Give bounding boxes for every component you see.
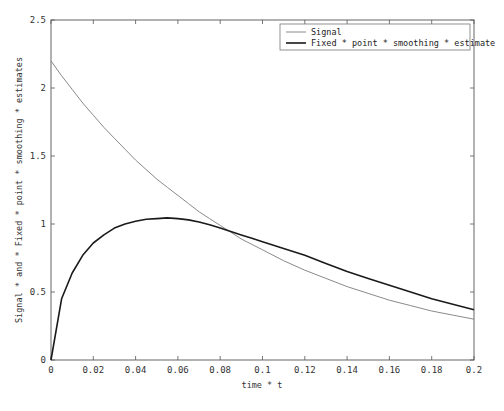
x-tick-label: 0.2 [466,365,482,375]
legend-signal-label: Signal [311,27,342,37]
x-tick-label: 0.08 [209,365,231,375]
data-series [51,61,474,360]
x-tick-label: 0.14 [336,365,358,375]
plot-border [51,20,474,360]
x-tick-label: 0.02 [82,365,104,375]
x-tick-label: 0.16 [379,365,401,375]
y-tick-label: 2 [41,83,46,93]
y-axis-label: Signal * and * Fixed * point * smoothing… [14,57,24,323]
legend: Signal Fixed * point * smoothing * estim… [280,24,495,50]
y-tick-label: 0.5 [30,287,46,297]
x-axis-label: time * t [242,380,283,390]
smoothing-estimate-line [51,218,474,360]
plot-area [51,20,474,360]
legend-estimate-label: Fixed * point * smoothing * estimate [311,38,495,48]
x-tick-label: 0.04 [125,365,147,375]
line-chart: 00.020.040.060.080.10.120.140.160.180.20… [0,0,504,411]
y-tick-label: 0 [41,355,46,365]
axis-ticks: 00.020.040.060.080.10.120.140.160.180.20… [30,15,482,375]
x-tick-label: 0.1 [254,365,270,375]
signal-line [51,61,474,319]
y-tick-label: 1 [41,219,46,229]
x-tick-label: 0.06 [167,365,189,375]
x-tick-label: 0 [48,365,53,375]
y-tick-label: 1.5 [30,151,46,161]
x-tick-label: 0.12 [294,365,316,375]
y-tick-label: 2.5 [30,15,46,25]
x-tick-label: 0.18 [421,365,443,375]
